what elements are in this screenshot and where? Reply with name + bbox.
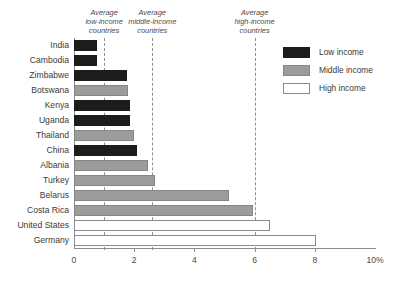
legend: Low incomeMiddle incomeHigh income [283,45,395,99]
category-label-india: India [50,40,69,51]
reference-note-line: Average [112,8,192,17]
reference-note-line: countries [112,26,192,35]
category-label-turkey: Turkey [43,175,69,186]
category-label-united-states: United States [17,220,69,231]
bar-row [74,220,375,231]
legend-swatch-middle [283,65,310,76]
bar-row [74,205,375,216]
x-tick-mark [194,248,195,252]
legend-label-high: High income [319,83,366,93]
x-tick-label-8: 8 [312,255,317,265]
bar-botswana [74,85,128,96]
bar-zimbabwe [74,70,127,81]
bar-united-states [74,220,270,231]
bar-china [74,145,137,156]
bar-uganda [74,115,130,126]
legend-label-low: Low income [319,47,364,57]
bar-row [74,100,375,111]
category-label-kenya: Kenya [45,100,69,111]
bar-costa-rica [74,205,253,216]
category-axis-labels: IndiaCambodiaZimbabweBotswanaKenyaUganda… [0,38,69,248]
x-tick-mark [315,248,316,252]
bar-chart: Averagelow-incomecountriesAveragemiddle-… [0,0,399,286]
category-label-costa-rica: Costa Rica [27,205,69,216]
bar-thailand [74,130,134,141]
legend-swatch-high [283,83,310,94]
category-label-zimbabwe: Zimbabwe [29,70,69,81]
bar-row [74,145,375,156]
x-tick-mark [134,248,135,252]
bar-row [74,115,375,126]
x-tick-label-4: 4 [192,255,197,265]
bar-cambodia [74,55,97,66]
legend-item-low: Low income [283,45,395,59]
x-tick-label-10: 10% [366,255,383,265]
bar-albania [74,160,148,171]
bar-row [74,235,375,246]
category-label-germany: Germany [34,235,69,246]
legend-item-high: High income [283,81,395,95]
x-tick-label-0: 0 [72,255,77,265]
category-label-thailand: Thailand [36,130,69,141]
x-tick-label-2: 2 [132,255,137,265]
x-tick-label-6: 6 [252,255,257,265]
reference-note-line: countries [215,26,295,35]
bar-kenya [74,100,130,111]
bar-row [74,160,375,171]
legend-swatch-low [283,47,310,58]
x-axis-line [74,248,376,249]
reference-line-note-3: Averagehigh-incomecountries [215,8,295,36]
reference-line-note-2: Averagemiddle-incomecountries [112,8,192,36]
bar-row [74,190,375,201]
bar-row [74,130,375,141]
legend-label-middle: Middle income [319,65,373,75]
category-label-china: China [47,145,69,156]
category-label-cambodia: Cambodia [30,55,69,66]
bar-germany [74,235,316,246]
category-label-albania: Albania [40,160,69,171]
bar-india [74,40,97,51]
reference-note-line: high-income [215,17,295,26]
category-label-botswana: Botswana [31,85,69,96]
bar-turkey [74,175,155,186]
bar-row [74,175,375,186]
category-label-uganda: Uganda [39,115,69,126]
category-label-belarus: Belarus [40,190,69,201]
reference-note-line: middle-income [112,17,192,26]
reference-note-line: Average [215,8,295,17]
bar-belarus [74,190,229,201]
legend-item-middle: Middle income [283,63,395,77]
x-tick-mark [255,248,256,252]
